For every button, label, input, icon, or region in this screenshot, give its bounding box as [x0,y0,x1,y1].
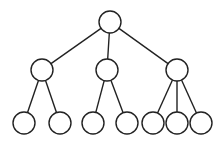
edge-c-c1 [158,80,173,113]
edge-root-c [119,28,168,63]
tree-nodes [13,11,212,134]
tree-node-a2 [49,112,71,134]
tree-node-c2 [166,112,188,134]
edge-c-c3 [182,80,197,113]
tree-node-c3 [190,112,212,134]
edge-a-a2 [46,80,57,112]
edge-root-b [108,33,110,59]
tree-node-a1 [13,112,35,134]
tree-node-b2 [116,112,138,134]
edge-root-a [51,28,101,63]
tree-node-root [99,11,121,33]
edge-a-a1 [28,80,39,112]
tree-node-c1 [142,112,164,134]
edge-b-b2 [111,80,123,112]
tree-node-b1 [82,112,104,134]
tree-node-c [166,59,188,81]
edge-b-b1 [96,81,104,113]
tree-node-b [96,59,118,81]
tree-node-a [31,59,53,81]
tree-diagram [0,0,222,141]
